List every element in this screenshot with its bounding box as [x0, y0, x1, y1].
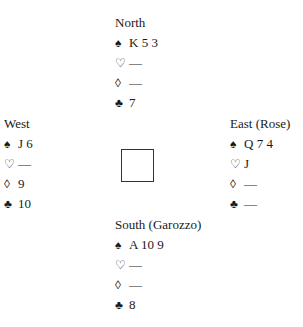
west-spades: ♠J 6 — [4, 134, 33, 154]
club-icon: ♣ — [4, 194, 18, 214]
heart-icon: ♡ — [115, 255, 129, 275]
club-icon: ♣ — [115, 93, 129, 113]
east-spades: ♠Q 7 4 — [230, 134, 290, 154]
club-icon: ♣ — [115, 295, 129, 315]
spade-icon: ♠ — [4, 134, 18, 154]
table-square — [121, 149, 154, 182]
west-label: West — [4, 114, 33, 134]
east-hand: East (Rose) ♠Q 7 4 ♡J ◊— ♣— — [230, 114, 290, 214]
south-hearts: ♡— — [115, 255, 201, 275]
diamond-icon: ◊ — [115, 73, 129, 93]
east-clubs: ♣— — [230, 194, 290, 214]
spade-icon: ♠ — [115, 235, 129, 255]
spade-icon: ♠ — [115, 33, 129, 53]
diamond-icon: ◊ — [115, 275, 129, 295]
south-clubs: ♣8 — [115, 295, 201, 315]
diamond-icon: ◊ — [230, 174, 244, 194]
south-spades: ♠A 10 9 — [115, 235, 201, 255]
east-label: East (Rose) — [230, 114, 290, 134]
east-diamonds: ◊— — [230, 174, 290, 194]
club-icon: ♣ — [230, 194, 244, 214]
south-diamonds: ◊— — [115, 275, 201, 295]
diamond-icon: ◊ — [4, 174, 18, 194]
west-hand: West ♠J 6 ♡— ◊9 ♣10 — [4, 114, 33, 214]
spade-icon: ♠ — [230, 134, 244, 154]
north-label: North — [115, 13, 158, 33]
heart-icon: ♡ — [230, 154, 244, 174]
west-diamonds: ◊9 — [4, 174, 33, 194]
north-hearts: ♡— — [115, 53, 158, 73]
north-hand: North ♠K 5 3 ♡— ◊— ♣7 — [115, 13, 158, 113]
south-hand: South (Garozzo) ♠A 10 9 ♡— ◊— ♣8 — [115, 215, 201, 315]
south-label: South (Garozzo) — [115, 215, 201, 235]
north-diamonds: ◊— — [115, 73, 158, 93]
west-hearts: ♡— — [4, 154, 33, 174]
east-hearts: ♡J — [230, 154, 290, 174]
north-spades: ♠K 5 3 — [115, 33, 158, 53]
west-clubs: ♣10 — [4, 194, 33, 214]
north-clubs: ♣7 — [115, 93, 158, 113]
heart-icon: ♡ — [4, 154, 18, 174]
heart-icon: ♡ — [115, 53, 129, 73]
